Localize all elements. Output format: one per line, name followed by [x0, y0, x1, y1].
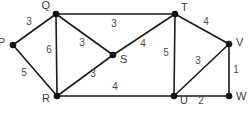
graph-node-r — [54, 93, 61, 100]
node-label-u: U — [180, 94, 188, 106]
graph-edge-p-q — [13, 14, 56, 45]
edge-weight-q-s: 3 — [79, 37, 85, 48]
node-label-t: T — [181, 1, 188, 13]
edge-weight-u-w: 2 — [198, 95, 204, 106]
graph-node-t — [172, 11, 179, 18]
edge-weight-r-s: 3 — [90, 68, 96, 79]
edge-weight-v-w: 1 — [233, 64, 239, 75]
node-label-s: S — [120, 53, 127, 65]
graph-edge-r-s — [57, 55, 113, 96]
graph-edge-t-v — [175, 14, 229, 44]
graph-figure: 3563334454321 PQRSTUVW — [0, 0, 251, 115]
edge-weight-t-u: 5 — [163, 47, 169, 58]
graph-edge-t-u — [174, 14, 175, 96]
graph-node-u — [171, 93, 178, 100]
graph-node-q — [53, 11, 60, 18]
graph-node-s — [110, 52, 117, 59]
edge-weight-p-r: 5 — [21, 67, 27, 78]
edge-weight-s-t: 4 — [140, 38, 146, 49]
edge-weight-q-t: 3 — [111, 18, 117, 29]
graph-canvas: 3563334454321 PQRSTUVW — [0, 0, 251, 115]
node-labels-layer: PQRSTUVW — [0, 0, 247, 106]
graph-edge-q-s — [56, 14, 113, 55]
node-label-r: R — [42, 92, 50, 104]
edge-weight-q-r: 6 — [46, 44, 52, 55]
graph-node-p — [10, 42, 17, 49]
edge-weight-u-v: 3 — [195, 55, 201, 66]
node-label-w: W — [236, 90, 247, 102]
node-label-v: V — [236, 36, 244, 48]
graph-edge-q-r — [56, 14, 57, 96]
edge-weight-t-v: 4 — [203, 16, 209, 27]
graph-edge-u-v — [174, 44, 229, 96]
graph-node-w — [226, 93, 233, 100]
edge-weight-r-u: 4 — [112, 81, 118, 92]
node-label-p: P — [0, 36, 5, 48]
edge-weight-p-q: 3 — [26, 16, 32, 27]
node-label-q: Q — [41, 0, 50, 11]
graph-node-v — [226, 41, 233, 48]
